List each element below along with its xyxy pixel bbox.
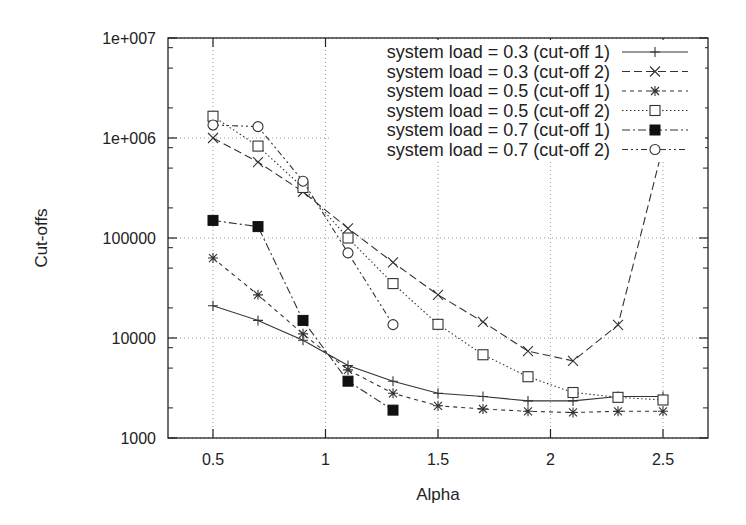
x-tick-label: 1.5: [427, 451, 449, 468]
data-point-marker: [523, 406, 533, 416]
data-point-marker: [478, 350, 488, 360]
y-tick-label: 10000: [112, 330, 157, 347]
x-tick-label: 2.5: [652, 451, 674, 468]
data-point-marker: [568, 356, 578, 366]
data-point-marker: [253, 290, 263, 300]
data-point-marker: [208, 301, 218, 311]
data-point-marker: [568, 388, 578, 398]
data-point-marker: [433, 319, 443, 329]
data-point-marker: [253, 157, 263, 167]
data-point-marker: [343, 248, 353, 258]
data-point-marker: [208, 253, 218, 263]
data-point-marker: [208, 215, 218, 225]
data-point-marker: [253, 122, 263, 132]
data-point-marker: [388, 320, 398, 330]
y-tick-label: 1e+006: [102, 130, 156, 147]
series-1: [208, 301, 668, 406]
data-point-marker: [298, 315, 308, 325]
data-point-marker: [433, 388, 443, 398]
legend-marker-icon: [650, 125, 660, 135]
x-tick-label: 2: [546, 451, 555, 468]
data-point-marker: [523, 396, 533, 406]
data-point-marker: [658, 395, 668, 405]
legend-marker-icon: [650, 86, 660, 96]
data-point-marker: [388, 376, 398, 386]
data-point-marker: [658, 406, 668, 416]
legend-label: system load = 0.7 (cut-off 1): [387, 120, 610, 140]
data-point-marker: [388, 405, 398, 415]
x-tick-label: 0.5: [202, 451, 224, 468]
x-tick-label: 1: [321, 451, 330, 468]
data-point-marker: [253, 222, 263, 232]
y-tick-label: 100000: [103, 230, 156, 247]
data-point-marker: [343, 376, 353, 386]
legend-marker-icon: [650, 145, 660, 155]
data-point-marker: [253, 141, 263, 151]
data-point-marker: [613, 392, 623, 402]
data-point-marker: [388, 279, 398, 289]
chart: 0.511.522.51000100001000001e+0061e+007 s…: [0, 0, 746, 525]
y-tick-label: 1000: [120, 430, 156, 447]
legend-marker-icon: [650, 106, 660, 116]
data-point-marker: [343, 233, 353, 243]
data-point-marker: [208, 120, 218, 130]
data-point-marker: [433, 401, 443, 411]
data-point-marker: [523, 372, 533, 382]
line-chart-svg: 0.511.522.51000100001000001e+0061e+007 s…: [0, 0, 746, 525]
y-tick-label: 1e+007: [102, 30, 156, 47]
data-point-marker: [478, 392, 488, 402]
legend-label: system load = 0.7 (cut-off 2): [387, 140, 610, 160]
series-5: [208, 215, 398, 415]
data-point-marker: [613, 320, 623, 330]
data-point-marker: [523, 346, 533, 356]
data-point-marker: [343, 223, 353, 233]
data-point-marker: [298, 329, 308, 339]
x-axis-title: Alpha: [416, 485, 460, 504]
legend-label: system load = 0.3 (cut-off 1): [387, 42, 610, 62]
data-point-marker: [568, 407, 578, 417]
data-point-marker: [613, 406, 623, 416]
legend-label: system load = 0.3 (cut-off 2): [387, 62, 610, 82]
legend-label: system load = 0.5 (cut-off 2): [387, 101, 610, 121]
data-point-marker: [298, 176, 308, 186]
data-point-marker: [388, 257, 398, 267]
data-point-marker: [343, 365, 353, 375]
legend-label: system load = 0.5 (cut-off 1): [387, 81, 610, 101]
legend: system load = 0.3 (cut-off 1)system load…: [330, 40, 705, 162]
data-point-marker: [478, 317, 488, 327]
data-point-marker: [253, 315, 263, 325]
y-axis-title: Cut-offs: [32, 208, 51, 267]
data-point-marker: [478, 404, 488, 414]
data-point-marker: [388, 388, 398, 398]
